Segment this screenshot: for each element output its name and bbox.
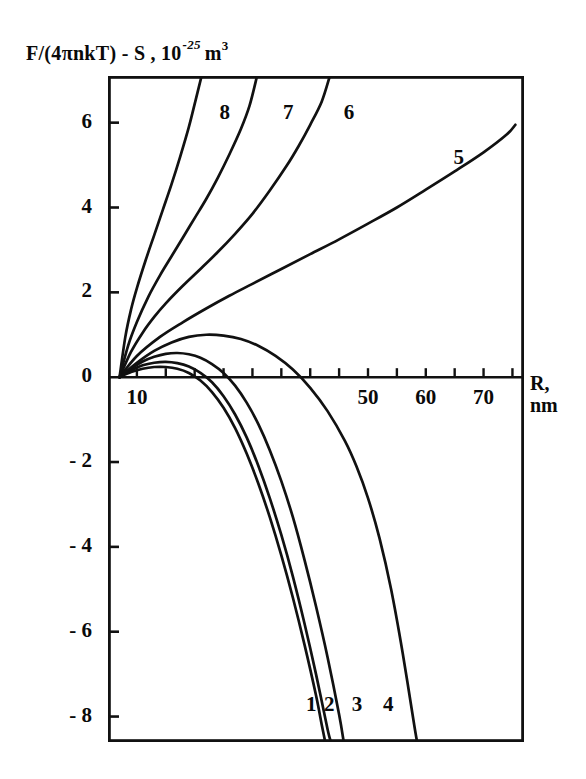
x-tick-label-50: 50 xyxy=(343,385,393,410)
curve-label-3: 3 xyxy=(352,692,363,717)
y-tick-label-6: 6 xyxy=(32,109,92,134)
x-axis-label-line2: nm xyxy=(530,394,558,416)
curve-7 xyxy=(120,76,258,377)
curve-label-5: 5 xyxy=(453,145,464,170)
y-tick-label-0: 0 xyxy=(32,363,92,388)
y-tick-label-4: 4 xyxy=(32,194,92,219)
curve-label-2: 2 xyxy=(324,692,335,717)
y-axis-label-main: F/(4πnkT) - S , xyxy=(26,42,156,64)
y-axis-label-mantissa: 10 xyxy=(161,42,182,64)
axis-ticks xyxy=(108,123,512,717)
y-tick-label--8: - 8 xyxy=(32,703,92,728)
figure-container: F/(4πnkT) - S ,10-25m3 R, nm 6420- 2- 4-… xyxy=(0,0,586,779)
y-tick-label--2: - 2 xyxy=(32,448,92,473)
curve-label-1: 1 xyxy=(306,692,317,717)
curves xyxy=(120,76,516,742)
x-axis-label-line1: R, xyxy=(530,372,558,394)
y-tick-label--6: - 6 xyxy=(32,618,92,643)
curve-2 xyxy=(120,362,331,742)
x-tick-label-60: 60 xyxy=(401,385,451,410)
x-tick-label-10: 10 xyxy=(112,385,162,410)
y-tick-label-2: 2 xyxy=(32,278,92,303)
x-axis-label: R, nm xyxy=(530,372,558,417)
y-axis-label: F/(4πnkT) - S ,10-25m3 xyxy=(26,40,229,65)
y-tick-label--4: - 4 xyxy=(32,533,92,558)
y-axis-label-unit: m3 xyxy=(205,42,229,64)
y-axis-unit-base: m xyxy=(205,42,222,64)
curve-3 xyxy=(120,353,344,742)
curve-1 xyxy=(120,367,326,742)
curve-label-8: 8 xyxy=(219,100,230,125)
y-axis-unit-exponent: 3 xyxy=(222,38,229,53)
x-tick-label-70: 70 xyxy=(459,385,509,410)
curve-label-7: 7 xyxy=(283,100,294,125)
y-axis-label-exponent: -25 xyxy=(183,37,201,52)
curve-label-6: 6 xyxy=(344,100,355,125)
curve-label-4: 4 xyxy=(383,692,394,717)
